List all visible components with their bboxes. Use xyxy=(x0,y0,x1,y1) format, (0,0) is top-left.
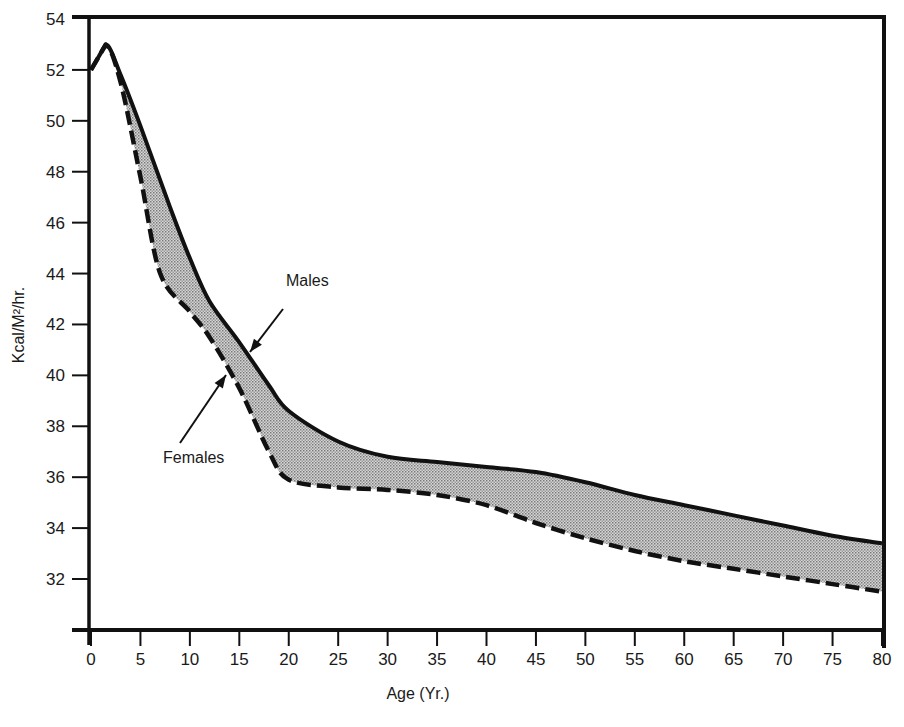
shaded-band xyxy=(91,44,882,591)
x-tick-label: 45 xyxy=(526,650,545,669)
males-line xyxy=(91,45,882,544)
y-tick-label: 50 xyxy=(46,112,65,131)
y-tick-label: 44 xyxy=(46,265,65,284)
x-axis-ticks: 05101520253035404550556065707580 xyxy=(86,630,891,669)
x-tick-label: 10 xyxy=(180,650,199,669)
y-tick-label: 34 xyxy=(46,519,65,538)
males-arrow-icon xyxy=(250,309,283,352)
x-tick-label: 0 xyxy=(86,650,95,669)
x-tick-label: 60 xyxy=(675,650,694,669)
x-tick-label: 65 xyxy=(724,650,743,669)
males-label: Males xyxy=(286,272,329,289)
x-tick-label: 30 xyxy=(378,650,397,669)
x-tick-label: 80 xyxy=(873,650,892,669)
y-tick-label: 52 xyxy=(46,61,65,80)
y-tick-label: 54 xyxy=(46,10,65,29)
y-tick-label: 40 xyxy=(46,366,65,385)
y-tick-label: 36 xyxy=(46,468,65,487)
females-label: Females xyxy=(163,449,224,466)
x-tick-label: 40 xyxy=(477,650,496,669)
y-tick-label: 46 xyxy=(46,214,65,233)
x-axis-title: Age (Yr.) xyxy=(386,685,449,702)
x-tick-label: 35 xyxy=(428,650,447,669)
x-tick-label: 70 xyxy=(774,650,793,669)
chart-canvas: 05101520253035404550556065707580 3234363… xyxy=(0,0,904,727)
y-tick-label: 42 xyxy=(46,315,65,334)
x-tick-label: 15 xyxy=(230,650,249,669)
y-tick-label: 32 xyxy=(46,570,65,589)
y-tick-label: 48 xyxy=(46,163,65,182)
difference-band-fill xyxy=(91,44,882,591)
females-arrow-icon xyxy=(180,375,226,443)
x-tick-label: 75 xyxy=(823,650,842,669)
x-tick-label: 20 xyxy=(279,650,298,669)
y-tick-label: 38 xyxy=(46,417,65,436)
y-axis-ticks: 323436384042444648505254 xyxy=(46,10,89,589)
x-tick-label: 50 xyxy=(576,650,595,669)
x-tick-label: 55 xyxy=(625,650,644,669)
x-tick-label: 5 xyxy=(136,650,145,669)
y-axis-title: Kcal/M²/hr. xyxy=(10,287,27,363)
x-tick-label: 25 xyxy=(329,650,348,669)
